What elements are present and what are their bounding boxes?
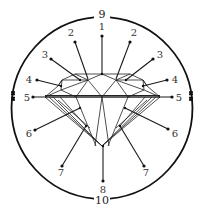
label-9: 9	[99, 8, 106, 21]
label-4-left: 4	[26, 74, 32, 85]
label-7-left: 7	[58, 167, 64, 178]
label-5-left: 5	[24, 92, 30, 103]
callout-lines	[33, 36, 172, 181]
label-4-right: 4	[172, 74, 178, 85]
label-1: 1	[99, 21, 105, 32]
label-6-right: 6	[172, 128, 178, 139]
label-5-right: 5	[176, 92, 182, 103]
diamond-shape	[45, 74, 160, 146]
label-2-right: 2	[131, 27, 137, 38]
diamond-diagram: 9 10 1 2 2 3 3 4 4 5 5 6 6 7 7 8	[0, 0, 205, 216]
label-3-right: 3	[157, 49, 163, 60]
label-8: 8	[100, 184, 106, 195]
label-6-left: 6	[26, 128, 32, 139]
label-10: 10	[95, 194, 109, 207]
label-3-left: 3	[42, 49, 48, 60]
label-2-left: 2	[68, 27, 74, 38]
label-7-right: 7	[143, 167, 149, 178]
